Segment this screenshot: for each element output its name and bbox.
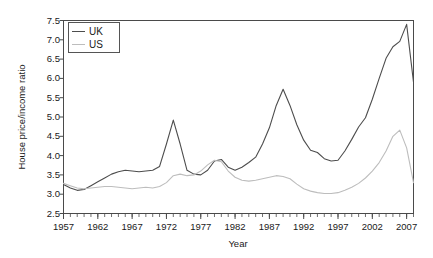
legend-line-icon-us: [72, 44, 85, 45]
legend-label-us: US: [89, 38, 103, 51]
legend-line-icon-uk: [72, 31, 85, 32]
legend: UK US: [68, 22, 120, 53]
plot-area: [0, 0, 433, 258]
legend-item-uk: UK: [72, 25, 118, 38]
legend-label-uk: UK: [89, 25, 103, 38]
chart-figure: House price/income ratio 2.53.03.54.04.5…: [0, 0, 433, 258]
legend-item-us: US: [72, 38, 118, 51]
